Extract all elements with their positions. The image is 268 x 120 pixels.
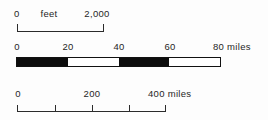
miles-scale-label-20: 20 xyxy=(62,41,73,52)
feet-scale-label-2000: 2,000 xyxy=(84,8,109,19)
long-scale-axis-line xyxy=(17,105,166,112)
miles-segment-60-80 xyxy=(169,58,220,66)
miles-scale-checker-bar xyxy=(16,57,221,67)
miles-scale-end-label: 80 miles xyxy=(213,41,251,52)
miles-scale-label-60: 60 xyxy=(164,41,175,52)
miles-scale-label-0: 0 xyxy=(14,41,20,52)
miles-segment-20-40 xyxy=(68,58,119,66)
long-scale-label-200: 200 xyxy=(84,88,101,99)
long-scale-tick-300 xyxy=(129,105,130,111)
feet-scale-bar: 0 feet 2,000 xyxy=(0,0,268,38)
feet-scale-unit-label: feet xyxy=(40,8,57,19)
miles-scale-label-40: 40 xyxy=(113,41,124,52)
long-scale-tick-100 xyxy=(55,105,56,111)
miles-scale-bar: 0 20 40 60 80 miles xyxy=(0,38,268,80)
miles-segment-0-20 xyxy=(17,58,68,66)
long-scale-end-label: 400 miles xyxy=(148,88,191,99)
feet-scale-label-0: 0 xyxy=(14,8,20,19)
map-scale-bars-graphic: 0 feet 2,000 0 20 40 60 80 miles 0 200 4… xyxy=(0,0,268,120)
miles-segment-40-60 xyxy=(119,58,170,66)
long-scale-tick-200 xyxy=(92,105,93,111)
feet-scale-bracket xyxy=(17,24,104,32)
long-scale-label-0: 0 xyxy=(15,88,21,99)
long-miles-scale-bar: 0 200 400 miles xyxy=(0,80,268,120)
